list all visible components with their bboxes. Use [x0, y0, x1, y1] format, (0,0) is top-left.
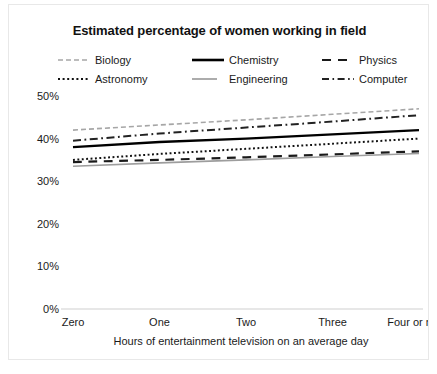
x-tick-label: One — [149, 316, 170, 328]
x-tick-label: Three — [318, 316, 347, 328]
x-tick-label: Two — [236, 316, 256, 328]
x-tick-label: Four or more — [387, 316, 429, 328]
chart-container: Estimated percentage of women working in… — [8, 4, 429, 360]
plot-area — [9, 5, 429, 360]
plot-svg — [9, 5, 429, 360]
x-axis-title: Hours of entertainment television on an … — [65, 335, 417, 347]
series-line-computer — [73, 115, 419, 141]
x-tick-label: Zero — [62, 316, 85, 328]
series-line-chemistry — [73, 130, 419, 147]
